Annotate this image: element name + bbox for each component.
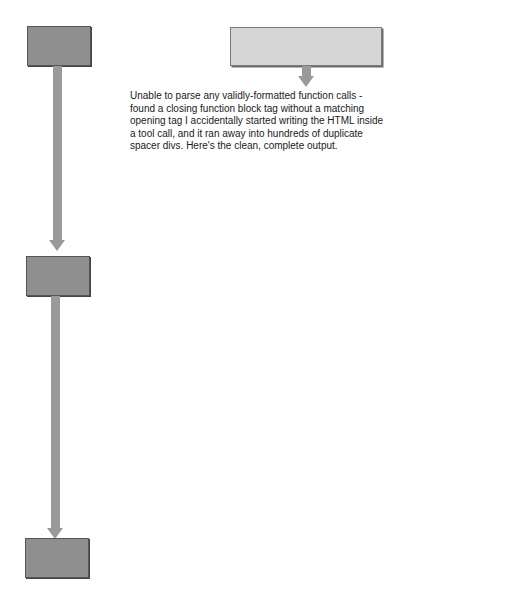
stage-judgment bbox=[25, 538, 89, 578]
gather-facts-box bbox=[230, 27, 382, 66]
arrow-down-icon bbox=[49, 240, 65, 251]
arrow-shaft bbox=[302, 66, 311, 76]
stage-arrow-shaft bbox=[51, 296, 60, 528]
stage-arrow-shaft bbox=[53, 66, 62, 240]
spacer: Unable to parse any validly-formatted fu… bbox=[130, 90, 388, 96]
arrow-down-icon bbox=[298, 76, 314, 87]
stage-analysis bbox=[26, 256, 90, 296]
stage-data-gathering bbox=[27, 26, 91, 66]
